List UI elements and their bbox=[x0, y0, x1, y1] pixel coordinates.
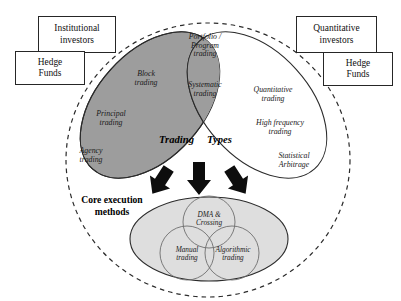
arrow-right bbox=[219, 162, 255, 200]
box-hedge-funds-left[interactable]: Hedge Funds bbox=[15, 51, 85, 85]
core-execution-label: Core execution methods bbox=[62, 194, 162, 217]
arrow-center bbox=[187, 162, 211, 195]
box-hedge-funds-right-label: Hedge Funds bbox=[346, 58, 370, 80]
box-hedge-funds-right[interactable]: Hedge Funds bbox=[323, 52, 393, 86]
diagram-canvas: Institutional investors Hedge Funds Quan… bbox=[0, 0, 401, 301]
box-quantitative-investors[interactable]: Quantitative investors bbox=[296, 16, 377, 53]
box-institutional-investors-label: Institutional investors bbox=[54, 23, 99, 45]
venn-title-trading: Trading bbox=[159, 134, 194, 145]
box-hedge-funds-left-label: Hedge Funds bbox=[38, 57, 62, 79]
box-quantitative-investors-label: Quantitative investors bbox=[313, 23, 359, 45]
box-institutional-investors[interactable]: Institutional investors bbox=[38, 16, 116, 53]
venn-title-types: Types bbox=[207, 134, 232, 145]
